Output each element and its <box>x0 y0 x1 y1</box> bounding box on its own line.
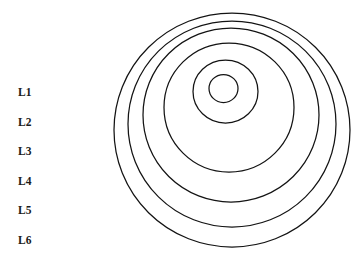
ring-l1 <box>209 75 238 103</box>
rings-layer <box>114 13 350 247</box>
ring-l6 <box>114 13 350 247</box>
ring-l4 <box>143 28 319 202</box>
concentric-rings-group <box>0 0 364 262</box>
ring-l5 <box>128 21 336 227</box>
ring-l2 <box>193 60 258 123</box>
diagram-canvas: L1 L2 L3 L4 L5 L6 <box>0 0 364 262</box>
ring-l3 <box>164 43 294 172</box>
rings-svg <box>0 0 364 262</box>
